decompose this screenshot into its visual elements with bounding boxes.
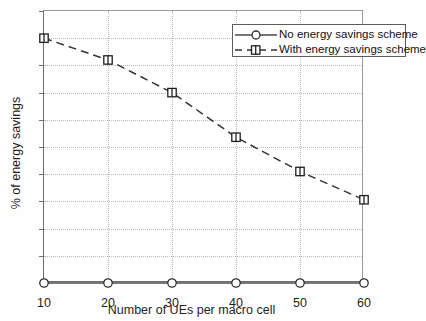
series-no-scheme [40,279,368,287]
data-point-circle-marker [360,279,368,287]
data-point-circle-marker [232,279,240,287]
data-point-circle-marker [296,279,304,287]
chart-legend: No energy savings scheme With energy sav… [232,24,406,57]
series-line [44,38,364,200]
x-axis-title: Number of UEs per macro cell [0,303,383,317]
legend-sample-dashed-square [233,43,279,57]
data-point-circle-marker [40,279,48,287]
data-point-circle-marker [104,279,112,287]
legend-label-with-scheme: With energy savings scheme [279,44,426,56]
data-point-circle-marker [168,279,176,287]
series-with-scheme [40,34,368,204]
legend-entry-no-scheme: No energy savings scheme [233,28,405,42]
legend-sample-solid-circle [233,28,279,42]
legend-entry-with-scheme: With energy savings scheme [233,43,405,57]
legend-label-no-scheme: No energy savings scheme [279,29,418,41]
y-axis-title: % of energy savings [9,53,23,253]
plot-area: 05101520253035404550 102030405060 No ene… [43,10,363,282]
